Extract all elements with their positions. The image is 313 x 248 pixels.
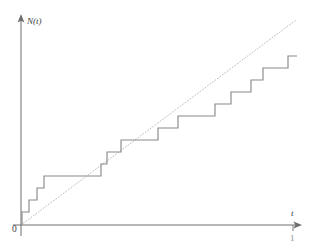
poisson-counting-process-figure: N(t) t 0 1 — [0, 0, 313, 248]
y-axis — [18, 14, 25, 236]
y-axis-label: N(t) — [26, 16, 42, 26]
origin-label: 0 — [12, 224, 17, 234]
step-function-curve — [21, 56, 297, 224]
x-axis — [13, 222, 302, 231]
plot-canvas: N(t) t 0 1 — [0, 0, 313, 248]
x-axis-label: t — [291, 208, 294, 218]
mean-reference-line — [21, 20, 296, 225]
x-tick-one-label: 1 — [290, 233, 295, 243]
